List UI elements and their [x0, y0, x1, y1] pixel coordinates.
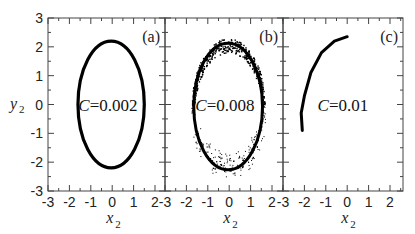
x-tick-label: 1	[365, 194, 373, 210]
x-tick-label: -1	[320, 194, 333, 210]
x-axis-label-sub: 2	[115, 218, 121, 230]
x-tick-label: 1	[130, 194, 138, 210]
y-axis-label: y 2	[8, 95, 25, 115]
x-tick-label: 0	[108, 194, 116, 210]
x-tick-label: -3	[277, 194, 290, 210]
x-tick-label: 0	[225, 194, 233, 210]
y-tick-label: -1	[31, 125, 44, 141]
svg-text:2: 2	[19, 103, 25, 115]
panel-tag: (c)	[380, 28, 398, 46]
x-tick-label: -1	[85, 194, 98, 210]
y-tick-label: 0	[35, 97, 43, 113]
x-tick-label: 2	[386, 194, 394, 210]
x-tick-label: -3	[159, 194, 172, 210]
x-tick-label: -1	[202, 194, 215, 210]
x-axis-label-sub: 2	[350, 218, 356, 230]
y-tick-labels: 3210-1-2-3	[31, 10, 44, 199]
panel-tag: (b)	[259, 28, 278, 46]
c-annotation: C=0.002	[78, 96, 137, 115]
x-tick-label: 0	[343, 194, 351, 210]
y-tick-label: 3	[35, 10, 43, 26]
x-axis-label: x	[340, 209, 348, 226]
x-axis-label: x	[222, 209, 230, 226]
figure: 3210-1-2-3 -3-2-1012x2(a)C=0.002-3-2-101…	[0, 0, 415, 234]
panel-a: -3-2-1012x2(a)C=0.002	[42, 18, 165, 230]
x-tick-label: -3	[42, 194, 55, 210]
x-axis-label-sub: 2	[232, 218, 238, 230]
x-tick-label: -2	[180, 194, 193, 210]
x-tick-label: 2	[268, 194, 276, 210]
y-tick-label: 2	[35, 39, 43, 55]
x-axis-label: x	[105, 209, 113, 226]
svg-text:y: y	[8, 95, 18, 113]
panel-tag: (a)	[142, 28, 160, 46]
x-tick-label: -2	[298, 194, 311, 210]
x-tick-label: -2	[63, 194, 76, 210]
panel-b: -3-2-1012x2(b)C=0.008	[159, 18, 283, 230]
x-tick-label: 1	[247, 194, 255, 210]
c-annotation: C=0.008	[195, 96, 254, 115]
c-annotation: C=0.01	[318, 96, 369, 115]
trajectory-arc	[301, 37, 347, 131]
y-tick-label: -2	[31, 154, 44, 170]
y-tick-label: 1	[35, 68, 43, 84]
panel-c: -3-2-1012x2(c)C=0.01	[277, 18, 403, 230]
panels: -3-2-1012x2(a)C=0.002-3-2-1012x2(b)C=0.0…	[42, 18, 403, 230]
